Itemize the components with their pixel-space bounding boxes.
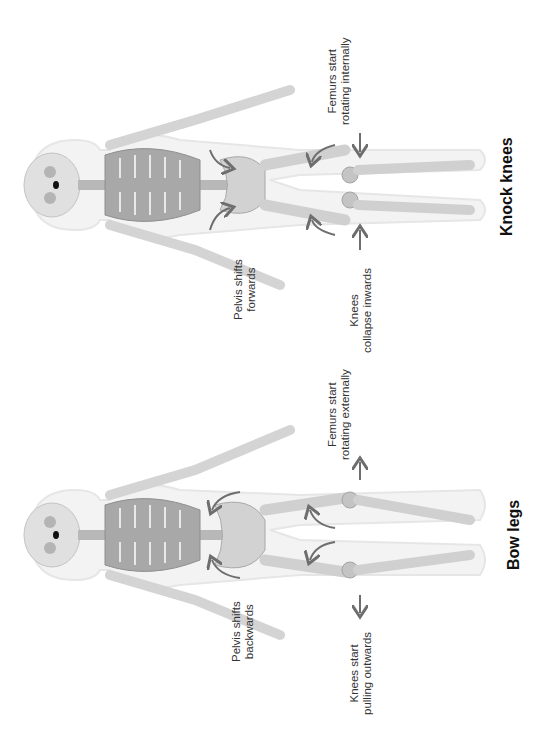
label-line: Pelvis shifts [230,601,243,662]
label-line: Femurs start [326,369,339,460]
label-line: Knees [348,268,361,353]
label-line: pulling outwards [361,632,374,715]
pelvis-label: Pelvis shifts forwards [232,259,258,320]
label-line: Pelvis shifts [232,259,245,320]
arm-upper [110,90,290,145]
knees-label: Knees start pulling outwards [348,632,374,715]
knees-label: Knees collapse inwards [348,268,374,353]
pelvis-label: Pelvis shifts backwards [230,601,256,662]
skull [24,503,80,567]
label-line: collapse inwards [361,268,374,353]
femurs-label: Femurs start rotating internally [326,37,352,125]
label-line: backwards [243,601,256,662]
arm-upper [110,430,290,495]
label-line: Femurs start [326,37,339,125]
label-line: Knees start [348,632,361,715]
bow-legs-skeleton-illustration [0,370,551,743]
pelvis [215,502,265,568]
panel-title: Knock knees [498,137,516,236]
skull [24,153,80,217]
label-line: forwards [245,259,258,320]
femurs-label: Femurs start rotating externally [326,369,352,460]
knock-knees-skeleton-illustration [0,0,551,370]
knock-knees-panel: Pelvis shifts forwards Femurs start rota… [0,0,551,370]
bow-legs-panel: Pelvis shifts backwards Femurs start rot… [0,370,551,743]
label-line: rotating internally [339,37,352,125]
panel-title: Bow legs [505,500,523,570]
label-line: rotating externally [339,369,352,460]
